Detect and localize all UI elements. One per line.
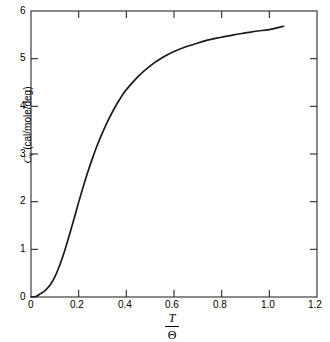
x-axis-label-numerator: T [152,312,192,325]
x-tick-label-2: 0.4 [118,300,132,310]
y-axis-label-subscript: v [26,153,35,157]
chart-canvas [0,0,330,342]
y-tick-label-1: 1 [20,244,26,254]
y-axis-label-symbol: C [21,156,33,163]
y-tick-label-0: 0 [20,292,26,302]
x-tick-label-3: 0.6 [165,300,179,310]
x-tick-label-5: 1.0 [261,300,275,310]
x-tick-label-4: 0.8 [213,300,227,310]
y-tick-label-6: 6 [20,6,26,16]
x-tick-label-6: 1.2 [308,300,322,310]
debye-heat-capacity-figure: 0 0.2 0.4 0.6 0.8 1.0 1.2 0 1 2 3 4 5 6 … [0,0,330,342]
x-axis-label-denominator: Θ [152,328,192,341]
y-axis-label-units: (cal/mole/deg) [22,86,33,149]
y-axis-label: Cv (cal/mole/deg) [21,45,35,205]
x-tick-label-1: 0.2 [70,300,84,310]
fraction-bar [165,326,179,327]
x-tick-label-0: 0 [28,300,34,310]
figure-background [0,0,330,342]
x-axis-label: T Θ [152,312,192,341]
